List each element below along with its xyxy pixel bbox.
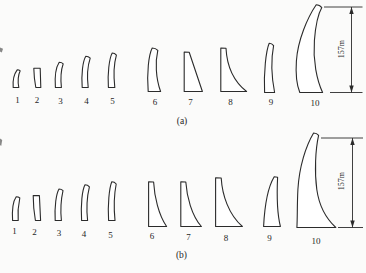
dimension-height-label: 157m: [337, 39, 346, 58]
profile-number-label: 10: [312, 236, 322, 246]
dam-profile-b-4: [81, 185, 89, 221]
dam-profile-a-6: [148, 48, 161, 92]
dam-profiles-figure: 12345678910157m(a)12345678910157m(b): [0, 0, 366, 273]
profile-number-label: 9: [269, 97, 274, 107]
profile-number-label: 2: [32, 227, 37, 237]
dam-profile-b-8: [216, 178, 243, 227]
scan-artifact: [0, 48, 3, 53]
dam-profile-b-6: [149, 182, 167, 227]
profile-number-label: 8: [228, 97, 233, 107]
dam-profile-a-9: [264, 43, 274, 92]
scan-artifact: [0, 139, 2, 147]
dam-profile-a-4: [82, 56, 90, 87]
profile-number-label: 5: [110, 96, 115, 106]
dam-profile-a-10: [296, 5, 322, 93]
row-caption-b: (b): [176, 250, 187, 261]
dam-profile-b-1: [12, 197, 19, 221]
dam-profile-b-5: [108, 182, 116, 221]
profile-number-label: 3: [58, 96, 63, 106]
profile-number-label: 4: [82, 229, 87, 239]
profile-row-b: 12345678910157m(b): [12, 133, 363, 261]
dam-profile-a-8: [221, 48, 247, 92]
dam-profile-a-3: [55, 62, 63, 87]
dam-profile-b-10: [297, 133, 336, 228]
profile-number-label: 6: [150, 231, 155, 241]
profile-number-label: 3: [57, 228, 62, 238]
profile-number-label: 1: [15, 95, 20, 105]
profile-number-label: 7: [188, 97, 193, 107]
arrow-up-icon: [349, 7, 353, 14]
row-caption-a: (a): [177, 116, 188, 127]
profile-number-label: 1: [12, 226, 17, 236]
arrow-down-icon: [349, 86, 353, 93]
dam-profile-a-7: [184, 52, 202, 92]
profile-number-label: 5: [108, 230, 113, 240]
dam-profile-a-2: [34, 68, 41, 87]
dam-profile-b-3: [55, 189, 63, 221]
profile-number-label: 7: [186, 232, 191, 242]
profile-number-label: 4: [84, 96, 89, 106]
dimension-height-label: 157m: [337, 171, 346, 190]
dam-profile-b-9: [264, 177, 281, 227]
dam-profile-b-7: [181, 182, 202, 227]
figure-page: 12345678910157m(a)12345678910157m(b): [0, 0, 366, 273]
profile-number-label: 9: [267, 233, 272, 243]
dam-profile-a-5: [108, 53, 116, 88]
arrow-up-icon: [350, 138, 354, 145]
profile-number-label: 8: [224, 233, 229, 243]
arrow-down-icon: [350, 221, 354, 228]
dam-profile-b-2: [33, 196, 40, 221]
profile-number-label: 6: [153, 97, 158, 107]
profile-number-label: 2: [35, 95, 40, 105]
profile-number-label: 10: [311, 98, 321, 108]
dam-profile-a-1: [13, 70, 20, 88]
profile-row-a: 12345678910157m(a): [13, 5, 362, 127]
